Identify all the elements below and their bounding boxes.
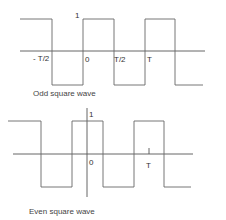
- even-square-wave-plot: [8, 108, 193, 197]
- odd-square-wave-line: [20, 19, 203, 85]
- even-amplitude-label: 1: [89, 111, 93, 119]
- odd-label-zero: 0: [85, 56, 89, 64]
- even-caption: Even square wave: [29, 208, 95, 216]
- odd-label-neg-half-period: - T/2: [33, 55, 49, 63]
- odd-square-wave-plot: [20, 19, 205, 85]
- odd-amplitude-label: 1: [75, 12, 79, 20]
- odd-label-half-period: T/2: [114, 56, 126, 64]
- square-waves-figure: [0, 0, 226, 220]
- even-label-zero: 0: [89, 159, 93, 167]
- odd-caption: Odd square wave: [33, 90, 96, 98]
- even-label-period: T: [146, 162, 151, 170]
- odd-label-period: T: [147, 56, 152, 64]
